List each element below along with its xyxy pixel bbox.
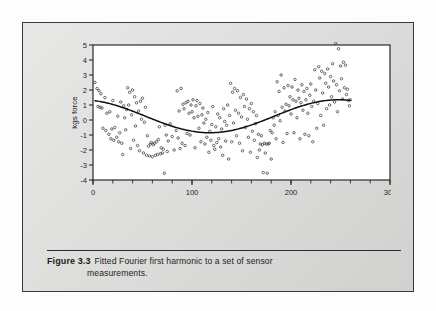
figure-number: Figure 3.3 bbox=[47, 256, 91, 266]
x-tick-label: 200 bbox=[285, 188, 298, 197]
y-tick-label: 1 bbox=[83, 101, 87, 110]
y-tick-label: 0 bbox=[83, 116, 87, 125]
figure-caption: Figure 3.3Fitted Fourier first harmonic … bbox=[47, 256, 377, 279]
y-tick-label: -2 bbox=[80, 146, 87, 155]
scatter-plot-svg: 0100200300-4-3-2-1012345Indexkgs force bbox=[71, 42, 391, 197]
caption-text-line1: Fitted Fourier first harmonic to a set o… bbox=[95, 256, 273, 266]
y-tick-label: -4 bbox=[80, 176, 87, 185]
x-tick-label: 0 bbox=[91, 188, 95, 197]
scatter-point bbox=[334, 42, 337, 45]
x-tick-label: 300 bbox=[384, 188, 391, 197]
y-tick-label: 3 bbox=[83, 71, 87, 80]
caption-text-line2: measurements. bbox=[87, 268, 377, 280]
figure-panel: 0100200300-4-3-2-1012345Indexkgs force F… bbox=[22, 22, 414, 292]
plot-area: 0100200300-4-3-2-1012345Indexkgs force bbox=[71, 42, 391, 197]
y-tick-label: 5 bbox=[83, 42, 87, 50]
y-tick-label: 2 bbox=[83, 86, 87, 95]
y-tick-label: 4 bbox=[83, 56, 87, 65]
y-axis-title: kgs force bbox=[71, 96, 79, 129]
caption-divider bbox=[47, 250, 401, 251]
y-tick-label: -1 bbox=[80, 131, 87, 140]
y-tick-label: -3 bbox=[80, 161, 87, 170]
x-tick-label: 100 bbox=[186, 188, 199, 197]
